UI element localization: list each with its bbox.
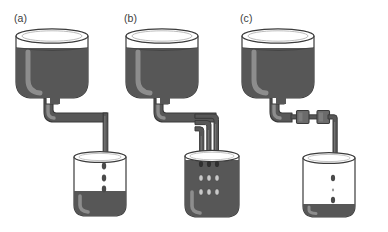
receiver-c-beaker <box>301 153 357 222</box>
panel-a <box>14 29 128 221</box>
receiver-b-beaker <box>183 150 241 220</box>
apparatus-diagram <box>0 0 388 232</box>
reservoir-c-liquid <box>240 48 318 110</box>
reservoir-a-liquid <box>14 48 92 110</box>
panel-label-b: (b) <box>124 12 137 24</box>
receiver-c-liquid <box>301 204 357 222</box>
panel-label-a: (a) <box>14 12 27 24</box>
conduit-a-single-tube <box>44 96 108 155</box>
restrictor-block-1 <box>297 111 310 124</box>
conduit-c-restricted-tube <box>270 96 337 157</box>
panel-label-c: (c) <box>240 12 253 24</box>
receiver-b-droplets <box>199 161 220 195</box>
receiver-b-liquid <box>183 160 241 220</box>
receiver-a-beaker <box>72 152 128 221</box>
conduit-b-triple-tubes <box>154 96 219 157</box>
reservoir-a-funnel <box>14 29 92 110</box>
figure-canvas: (a) (b) (c) <box>0 0 388 232</box>
reservoir-c-funnel <box>240 29 318 110</box>
receiver-a-droplets <box>102 163 106 193</box>
reservoir-b-liquid <box>124 48 202 110</box>
panel-b <box>124 29 241 220</box>
reservoir-b-funnel <box>124 29 202 110</box>
panel-c <box>240 29 357 222</box>
